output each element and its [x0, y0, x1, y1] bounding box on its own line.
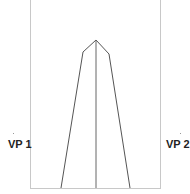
vp2-label: VP 2 [166, 138, 190, 150]
perspective-diagram [0, 0, 190, 194]
vp1-label: VP 1 [8, 138, 32, 150]
vp2-point [180, 133, 181, 134]
vp1-point [13, 133, 14, 134]
